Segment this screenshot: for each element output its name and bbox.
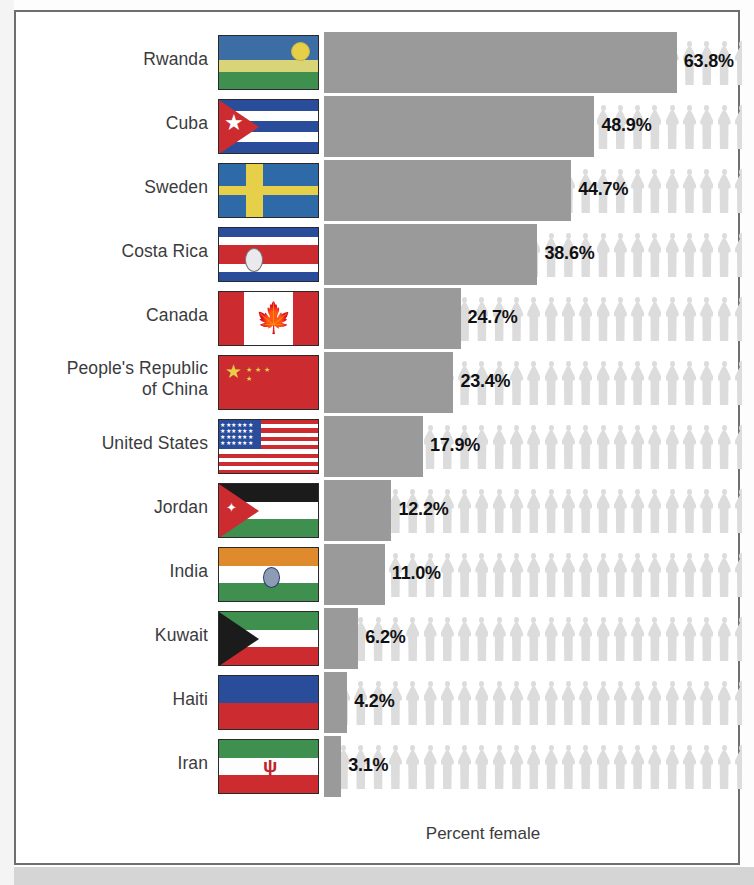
person-icon-body: [735, 239, 742, 277]
person-icon: [545, 553, 558, 597]
person-icon-head: [497, 553, 502, 559]
person-icon-head: [428, 681, 433, 687]
person-icon-head: [479, 617, 484, 623]
country-label-line: Cuba: [16, 113, 208, 134]
person-icon-body: [406, 751, 419, 789]
person-icon-head: [393, 681, 398, 687]
person-icon: [683, 425, 696, 469]
person-icon: [527, 361, 540, 405]
person-icon-body: [683, 303, 696, 341]
person-icon: [545, 425, 558, 469]
flag-stripe: [219, 703, 318, 730]
person-icon-body: [545, 495, 558, 533]
person-icon-head: [479, 681, 484, 687]
person-icon-head: [722, 361, 727, 367]
x-axis-label-text: Percent female: [426, 824, 540, 843]
flag-stripe: [219, 245, 318, 263]
person-icon-head: [410, 681, 415, 687]
person-icon-body: [631, 495, 644, 533]
person-icon: [562, 489, 575, 533]
person-icon: [700, 361, 713, 405]
country-label: Jordan: [16, 497, 208, 518]
country-label: Rwanda: [16, 49, 208, 70]
person-icon-head: [601, 361, 606, 367]
person-icon-head: [652, 745, 657, 751]
person-icon-head: [566, 361, 571, 367]
person-icon: [683, 361, 696, 405]
person-icon-body: [700, 367, 713, 405]
person-icon: [666, 233, 679, 277]
person-icon-head: [462, 745, 467, 751]
person-icon-head: [428, 553, 433, 559]
person-icon-body: [441, 751, 454, 789]
person-icon: [683, 553, 696, 597]
value-bar: [324, 608, 358, 669]
value-label: 44.7%: [578, 179, 628, 200]
person-icon: [683, 745, 696, 789]
person-icon-head: [410, 745, 415, 751]
person-icon-body: [597, 367, 610, 405]
person-icon: [735, 361, 742, 405]
person-icon-head: [670, 233, 675, 239]
person-icon-head: [670, 361, 675, 367]
person-icon-head: [722, 489, 727, 495]
person-icon-head: [635, 681, 640, 687]
person-icon-head: [341, 745, 346, 751]
person-icon-body: [614, 303, 627, 341]
flag-triangle: [219, 484, 259, 538]
person-icon: [562, 361, 575, 405]
value-bar: [324, 160, 571, 221]
country-label-line: United States: [16, 433, 208, 454]
person-icon: [510, 681, 523, 725]
chart-row: Jordan✦12.2%: [16, 479, 738, 543]
flag-sweden: [218, 163, 319, 218]
flag-china: ★★ ★ ★ ★: [218, 355, 319, 410]
person-icon: [700, 297, 713, 341]
person-icon-body: [562, 687, 575, 725]
person-icon: [735, 169, 742, 213]
person-icon-body: [441, 559, 454, 597]
person-icon-head: [514, 297, 519, 303]
person-icon-head: [410, 489, 415, 495]
person-icon-head: [445, 489, 450, 495]
person-icon-head: [635, 297, 640, 303]
person-icon-head: [531, 489, 536, 495]
person-icon: [510, 425, 523, 469]
person-icon-body: [527, 495, 540, 533]
person-icon-head: [462, 297, 467, 303]
person-icon: [424, 617, 437, 661]
person-icon: [424, 681, 437, 725]
person-icon-body: [562, 303, 575, 341]
person-icon-body: [683, 431, 696, 469]
person-icon-head: [410, 553, 415, 559]
flag-united-states: ★★★★★★ ★★★★★★ ★★★★★★ ★★★★★★: [218, 419, 319, 474]
person-icon-head: [687, 169, 692, 175]
person-icon-body: [614, 431, 627, 469]
person-icon-head: [635, 233, 640, 239]
person-icon-head: [739, 617, 742, 623]
value-label: 6.2%: [365, 627, 405, 648]
person-icon: [683, 297, 696, 341]
person-icon: [510, 617, 523, 661]
pictogram-bar-chart: Rwanda63.8%Cuba★48.9%Sweden44.7%Costa Ri…: [16, 12, 738, 863]
person-icon-body: [631, 623, 644, 661]
person-icon-head: [739, 297, 742, 303]
person-icon: [527, 617, 540, 661]
person-icon-head: [652, 105, 657, 111]
person-icon: [579, 361, 592, 405]
person-icon-body: [579, 367, 592, 405]
person-icon-head: [722, 617, 727, 623]
value-label: 48.9%: [601, 115, 651, 136]
chart-row: Sweden44.7%: [16, 159, 738, 223]
person-icon: [648, 361, 661, 405]
person-icon: [406, 745, 419, 789]
person-icon: [631, 361, 644, 405]
person-icon: [683, 233, 696, 277]
person-icon: [527, 425, 540, 469]
person-icon-body: [735, 495, 742, 533]
person-icon-body: [527, 751, 540, 789]
person-icon-head: [635, 169, 640, 175]
person-icon-head: [462, 489, 467, 495]
person-icon-head: [445, 681, 450, 687]
person-icon-body: [735, 559, 742, 597]
